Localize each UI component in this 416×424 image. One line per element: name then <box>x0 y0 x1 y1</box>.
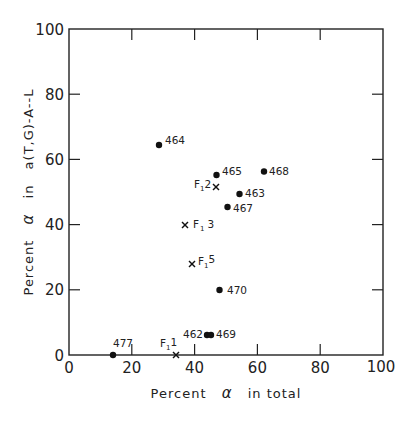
y-tick-100: 100 <box>35 21 64 39</box>
y-tick-60: 60 <box>45 151 64 169</box>
svg-text:463: 463 <box>245 187 265 199</box>
svg-text:467: 467 <box>233 202 253 214</box>
svg-text:468: 468 <box>269 165 289 177</box>
x-axis-title: Percent α in total <box>151 384 302 402</box>
dot-marker <box>216 287 222 293</box>
svg-text:F11: F11 <box>160 336 177 352</box>
y-tick-labels: 0 20 40 60 80 100 <box>35 21 64 365</box>
x-tick-100: 100 <box>367 358 396 376</box>
y-axis-ticks-left <box>69 94 80 290</box>
svg-text:477: 477 <box>113 337 133 349</box>
point-465: 465 <box>213 165 242 178</box>
cross-marker <box>182 222 188 228</box>
dot-marker <box>208 332 214 338</box>
point-469: 469 <box>208 328 236 340</box>
dot-marker <box>110 352 116 358</box>
cross-marker <box>189 261 195 267</box>
plot-frame <box>69 29 383 355</box>
x-tick-60: 60 <box>248 359 267 377</box>
x-tick-80: 80 <box>311 359 330 377</box>
y-tick-0: 0 <box>54 347 64 365</box>
svg-text:F12: F12 <box>194 178 211 193</box>
y-tick-20: 20 <box>45 281 64 299</box>
point-464: 464 <box>156 134 186 148</box>
svg-text:465: 465 <box>222 165 242 177</box>
svg-text:F13: F13 <box>193 218 214 233</box>
cross-marker <box>213 184 219 190</box>
series-strains: 464 465 468 463 467 470 462 469 <box>110 134 289 358</box>
dot-marker <box>224 204 230 210</box>
svg-text:470: 470 <box>227 284 247 296</box>
point-f1-5: F15 <box>189 253 215 270</box>
point-463: 463 <box>236 187 265 199</box>
scatter-chart: 0 20 40 60 80 100 0 20 40 60 80 100 Perc… <box>0 0 416 424</box>
x-tick-40: 40 <box>185 359 204 377</box>
point-462: 462 <box>183 328 210 340</box>
point-467: 467 <box>224 202 253 214</box>
dot-marker <box>261 168 267 174</box>
x-tick-20: 20 <box>122 359 141 377</box>
point-f1-2: F12 <box>194 178 219 193</box>
x-tick-labels: 0 20 40 60 80 100 <box>64 358 395 377</box>
point-470: 470 <box>216 284 247 296</box>
x-tick-0: 0 <box>64 359 74 377</box>
dot-marker <box>213 172 219 178</box>
svg-text:F15: F15 <box>198 253 215 270</box>
y-axis-title: Percent α in a(T,G)-A--L <box>19 89 37 296</box>
y-tick-40: 40 <box>45 216 64 234</box>
svg-text:462: 462 <box>183 328 203 340</box>
dot-marker <box>156 142 162 148</box>
point-f1-3: F13 <box>182 218 214 233</box>
x-axis-ticks-top <box>132 29 320 40</box>
svg-text:464: 464 <box>165 134 185 146</box>
dot-marker <box>236 191 242 197</box>
point-468: 468 <box>261 165 289 177</box>
y-tick-80: 80 <box>45 86 64 104</box>
y-axis-ticks-right <box>372 94 383 290</box>
svg-text:469: 469 <box>216 328 236 340</box>
